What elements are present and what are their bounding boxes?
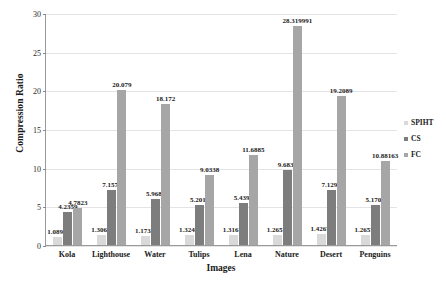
compression-ratio-bar-chart: Compression Ratio 051015202530 1.08984.2… xyxy=(0,0,446,290)
bar: 11.6885 xyxy=(249,155,258,245)
y-axis-tick-label: 10 xyxy=(33,164,46,173)
bar: 7.1577 xyxy=(107,190,116,245)
bar: 1.0898 xyxy=(53,237,62,245)
legend-label: SPIHT xyxy=(411,118,434,127)
y-axis-tick-label: 30 xyxy=(33,10,46,19)
legend-item[interactable]: FC xyxy=(404,150,434,159)
y-axis-tick-label: 5 xyxy=(37,203,46,212)
legend-item[interactable]: CS xyxy=(404,134,434,143)
x-axis-title: Images xyxy=(45,263,397,273)
bar: 5.9687 xyxy=(151,199,160,245)
legend-swatch-icon xyxy=(404,153,408,157)
bar: 28.319991 xyxy=(293,26,302,245)
bar: 4.7823 xyxy=(73,208,82,245)
y-axis-tick-label: 20 xyxy=(33,87,46,96)
bar-value-label: 10.88163 xyxy=(372,153,398,160)
bar-group: 1.17335.968718.172 xyxy=(134,14,178,245)
bar: 5.1701 xyxy=(371,205,380,245)
bar-value-label: 20.079 xyxy=(112,82,131,89)
bar: 9.0338 xyxy=(205,175,214,245)
bar-group: 1.08984.23594.7823 xyxy=(46,14,90,245)
legend-swatch-icon xyxy=(404,121,408,125)
legend-swatch-icon xyxy=(404,137,408,141)
y-axis-tick-label: 15 xyxy=(33,126,46,135)
x-axis-tick-label: Nature xyxy=(265,250,309,259)
bar-group: 1.31615.439611.6885 xyxy=(222,14,266,245)
bar-value-label: 11.6885 xyxy=(242,147,264,154)
bar-groups: 1.08984.23594.78231.30667.157720.0791.17… xyxy=(46,14,397,245)
legend-label: CS xyxy=(411,134,421,143)
bar-group: 1.42677.129719.2089 xyxy=(309,14,353,245)
bar: 1.2657 xyxy=(361,235,370,245)
x-axis-tick-label: Desert xyxy=(309,250,353,259)
bar: 1.1733 xyxy=(141,236,150,245)
bar-group: 1.26575.170110.88163 xyxy=(353,14,397,245)
bar-value-label: 4.7823 xyxy=(68,200,87,207)
bar: 10.88163 xyxy=(381,161,390,245)
bar: 1.3066 xyxy=(97,235,106,245)
x-axis-tick-label: Water xyxy=(133,250,177,259)
x-axis-tick-label: Tulips xyxy=(177,250,221,259)
bar-value-label: 9.0338 xyxy=(200,167,219,174)
chart-legend: SPIHTCSFC xyxy=(404,118,434,159)
x-axis-tick-label: Penguins xyxy=(353,250,397,259)
bar-group: 1.30667.157720.079 xyxy=(90,14,134,245)
legend-item[interactable]: SPIHT xyxy=(404,118,434,127)
bar: 18.172 xyxy=(161,104,170,245)
gridline xyxy=(46,246,397,247)
bar: 1.3246 xyxy=(185,235,194,245)
bar: 19.2089 xyxy=(337,96,346,245)
bar: 5.4396 xyxy=(239,203,248,245)
plot-area: 051015202530 1.08984.23594.78231.30667.1… xyxy=(45,14,397,246)
bar: 5.2013 xyxy=(195,205,204,245)
bar: 20.079 xyxy=(117,90,126,245)
bar-value-label: 19.2089 xyxy=(330,88,353,95)
legend-label: FC xyxy=(411,150,421,159)
x-axis-tick-label: Lena xyxy=(221,250,265,259)
x-axis-tick-label: Lighthouse xyxy=(89,250,133,259)
x-axis-tick-label: Kola xyxy=(45,250,89,259)
y-axis-tick-label: 25 xyxy=(33,48,46,57)
bar: 4.2359 xyxy=(63,212,72,245)
bar-group: 1.32465.20139.0338 xyxy=(178,14,222,245)
bar-value-label: 18.172 xyxy=(156,96,175,103)
bar: 7.1297 xyxy=(327,190,336,245)
x-axis-tick-labels: KolaLighthouseWaterTulipsLenaNatureDeser… xyxy=(45,250,397,259)
bar: 1.2657 xyxy=(273,235,282,245)
bar-value-label: 28.319991 xyxy=(282,18,312,25)
bar: 9.6832 xyxy=(283,170,292,245)
bar: 1.4267 xyxy=(317,234,326,245)
bar-group: 1.26579.683228.319991 xyxy=(265,14,309,245)
y-axis-title: Compression Ratio xyxy=(15,53,25,173)
bar: 1.3161 xyxy=(229,235,238,245)
